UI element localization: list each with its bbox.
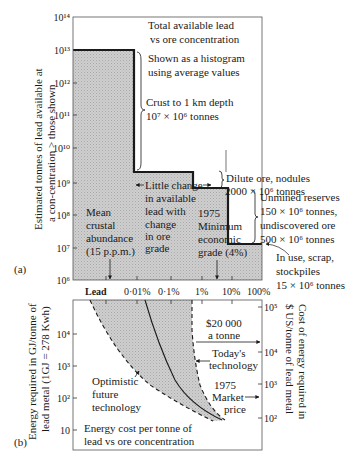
- ytick-left-1e4: 10⁴: [57, 329, 71, 340]
- panel-a-title: Total available lead vs ore concentratio…: [148, 19, 245, 78]
- ylabel-b-right-line1: Cost of energy required in: [297, 304, 309, 420]
- ytick-1e7: 10⁷: [57, 243, 71, 254]
- ytick-1e6: 10⁶: [57, 275, 71, 286]
- panel-b-left-y-ticks: [73, 334, 77, 430]
- today-tech-annotation: Today's technology: [209, 347, 258, 371]
- optimistic-line3: technology: [92, 401, 141, 413]
- optimistic-line2: future: [92, 388, 118, 400]
- ylabel-b-right-line2: $ US/tonne of lead metal: [284, 304, 296, 414]
- market-price-annotation: 1975 Market price: [212, 379, 246, 415]
- mean-line3: abundance: [86, 232, 133, 244]
- mean-line2: crustal: [86, 219, 115, 231]
- panel-b-left-y-tick-labels: 10⁴ 10³ 10² 10: [57, 329, 71, 436]
- xtick-1pct: 1%: [195, 286, 208, 297]
- panel-b-label: (b): [14, 436, 27, 449]
- ytick-left-10: 10: [60, 425, 70, 436]
- unmined-line3: undiscovered ore: [260, 219, 336, 231]
- optimistic-annotation: Optimistic future technology: [92, 375, 141, 413]
- inuse-line2: stockpiles: [276, 265, 320, 277]
- market-line2: Market: [212, 391, 244, 403]
- crust-line2: 10⁷ × 10⁶ tonnes: [146, 110, 219, 122]
- ytick-1e8: 10⁸: [57, 210, 71, 221]
- unmined-line2: 150 × 10⁶ tonnes,: [260, 205, 338, 217]
- xtick-100pct: 100%: [247, 286, 270, 297]
- x-axis-lead-label: Lead: [85, 286, 107, 297]
- ytick-right-1e2: 10²: [264, 413, 277, 424]
- price20k-line2: a tonne: [208, 329, 240, 341]
- today-line2: technology: [209, 359, 258, 371]
- dilute-line1: Dilute ore, nodules: [226, 172, 310, 184]
- ylabel-a-line2: a con-centration > those shown: [45, 84, 57, 222]
- unmined-line1: Unmined reserves: [260, 191, 340, 203]
- inuse-annotation: In use, scrap, stockpiles 15 × 10⁶ tonne…: [276, 251, 345, 291]
- ytick-1e13: 10¹³: [54, 45, 70, 56]
- ytick-left-1e2: 10²: [57, 393, 70, 404]
- panel-a-y-label: Estimated tonnes of lead available at a …: [32, 68, 57, 230]
- panel-b: 10⁴ 10³ 10² 10 10⁵ 10⁴ 10³ 10² Energy re…: [14, 300, 309, 450]
- inuse-line1: In use, scrap,: [276, 251, 334, 263]
- mean-line4: (15 p.p.m.): [86, 245, 135, 258]
- title-b-line2: lead vs ore concentration: [84, 435, 195, 447]
- panel-b-right-y-tick-labels: 10⁵ 10⁴ 10³ 10²: [264, 302, 278, 424]
- market-line1: 1975: [214, 379, 237, 391]
- panel-b-title: Energy cost per tonne of lead vs ore con…: [84, 422, 195, 447]
- subtitle-a-line2: using average values: [148, 66, 240, 78]
- min-line1: 1975: [198, 207, 221, 219]
- min-line4: grade (4%): [198, 246, 248, 259]
- panel-b-right-y-label: Cost of energy required in $ US/tonne of…: [284, 304, 309, 420]
- unmined-annotation: Unmined reserves 150 × 10⁶ tonnes, undis…: [260, 191, 340, 245]
- crust-brace: [137, 52, 145, 170]
- price20k-line1: $20 000: [206, 317, 242, 329]
- lead-figure: 10¹⁴ 10¹³ 10¹² 10¹¹ 10¹⁰ 10⁹ 10⁸ 10⁷ 10⁶…: [0, 0, 362, 463]
- panel-b-right-y-ticks: [258, 307, 262, 418]
- title-a-line2: vs ore concentration: [150, 33, 240, 45]
- panel-a: 10¹⁴ 10¹³ 10¹² 10¹¹ 10¹⁰ 10⁹ 10⁸ 10⁷ 10⁶…: [14, 12, 345, 291]
- ylabel-a-line1: Estimated tonnes of lead available at: [32, 68, 44, 230]
- little-line1: Little change: [145, 179, 203, 191]
- subtitle-a-line1: Shown as a histogram: [148, 52, 245, 64]
- crust-annotation: Crust to 1 km depth 10⁷ × 10⁶ tonnes: [146, 96, 234, 122]
- dilute-brace: [219, 171, 224, 188]
- crust-line1: Crust to 1 km depth: [146, 96, 234, 108]
- inuse-line3: 15 × 10⁶ tonnes: [276, 279, 345, 291]
- xtick-0-01pct: 0·01%: [124, 286, 151, 297]
- market-line3: price: [224, 403, 246, 415]
- ytick-left-1e3: 10³: [57, 361, 70, 372]
- little-line3: lead with: [145, 205, 186, 217]
- mean-line1: Mean: [86, 206, 112, 218]
- title-b-line1: Energy cost per tonne of: [84, 422, 192, 434]
- today-line1: Today's: [212, 347, 246, 359]
- panel-a-label: (a): [14, 263, 27, 276]
- unmined-line4: 500 × 10⁶ tonnes: [260, 233, 335, 245]
- xtick-0-1pct: 0·1%: [158, 286, 180, 297]
- xtick-10pct: 10%: [222, 286, 240, 297]
- price-20k-annotation: $20 000 a tonne: [206, 317, 242, 341]
- ytick-right-1e5: 10⁵: [264, 302, 278, 313]
- ylabel-b-left-line2: lead metal (1GJ = 278 Kwh): [39, 306, 52, 432]
- ytick-1e14: 10¹⁴: [54, 12, 71, 23]
- panel-b-left-y-label: Energy required in GJ/tonne of lead meta…: [26, 303, 52, 440]
- little-line5: in ore: [145, 230, 170, 242]
- ylabel-b-left-line1: Energy required in GJ/tonne of: [26, 303, 38, 440]
- ytick-right-1e4: 10⁴: [264, 347, 278, 358]
- unmined-brace: [252, 190, 258, 243]
- little-line6: grade: [145, 242, 170, 254]
- ytick-right-1e3: 10³: [264, 379, 277, 390]
- optimistic-line1: Optimistic: [92, 375, 139, 387]
- x-axis-labels: Lead 0·01% 0·1% 1% 10% 100%: [85, 286, 270, 297]
- title-a-line1: Total available lead: [148, 19, 234, 31]
- little-line4: change: [145, 218, 176, 230]
- min-line3: economic: [198, 233, 241, 245]
- min-line2: Minimum: [198, 220, 242, 232]
- little-line2: in available: [145, 192, 196, 204]
- ytick-1e9: 10⁹: [57, 178, 71, 189]
